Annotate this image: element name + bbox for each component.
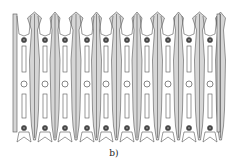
bottom-rivet-center: [64, 127, 66, 129]
center-hole-icon: [186, 81, 192, 87]
bottom-notch: [182, 132, 196, 142]
bottom-notch: [161, 132, 175, 142]
top-rivet-center: [64, 39, 66, 41]
upper-slot: [22, 46, 26, 72]
bottom-rivet-center: [188, 127, 190, 129]
center-hole-icon: [207, 81, 213, 87]
bottom-notch: [99, 132, 113, 142]
center-hole-icon: [84, 81, 90, 87]
center-hole-icon: [62, 81, 68, 87]
bottom-notch: [58, 132, 72, 142]
bottom-notch: [17, 132, 31, 142]
bottom-notch: [120, 132, 134, 142]
upper-slot: [43, 46, 47, 72]
lower-slot: [104, 94, 108, 118]
lower-slot: [187, 94, 191, 118]
bottom-rivet-center: [105, 127, 107, 129]
upper-slot: [187, 46, 191, 72]
center-hole-icon: [165, 81, 171, 87]
bottom-notch: [80, 132, 94, 142]
upper-slot: [208, 46, 212, 72]
upper-slot: [166, 46, 170, 72]
lower-slot: [85, 94, 89, 118]
lamination-diagram: [0, 0, 228, 165]
top-rivet-center: [44, 39, 46, 41]
bottom-rivet-center: [86, 127, 88, 129]
lower-slot: [43, 94, 47, 118]
upper-slot: [145, 46, 149, 72]
lower-slot: [22, 94, 26, 118]
edge-bar: [13, 14, 17, 132]
top-rivet-center: [105, 39, 107, 41]
top-rivet-center: [146, 39, 148, 41]
lower-slot: [166, 94, 170, 118]
figure-caption: b): [0, 148, 228, 158]
lower-slot: [145, 94, 149, 118]
center-hole-icon: [144, 81, 150, 87]
top-rivet-center: [86, 39, 88, 41]
top-rivet-center: [209, 39, 211, 41]
upper-slot: [85, 46, 89, 72]
center-hole-icon: [124, 81, 130, 87]
bottom-rivet-center: [126, 127, 128, 129]
top-rivet-center: [167, 39, 169, 41]
bottom-notch: [38, 132, 52, 142]
bottom-rivet-center: [167, 127, 169, 129]
top-rivet-center: [188, 39, 190, 41]
upper-slot: [104, 46, 108, 72]
bottom-rivet-center: [146, 127, 148, 129]
upper-slot: [125, 46, 129, 72]
top-rivet-center: [23, 39, 25, 41]
bottom-rivet-center: [44, 127, 46, 129]
bottom-notch: [203, 132, 217, 142]
bottom-notch: [140, 132, 154, 142]
center-hole-icon: [21, 81, 27, 87]
edge-bar-right: [217, 14, 220, 132]
upper-slot: [63, 46, 67, 72]
center-hole-icon: [103, 81, 109, 87]
lower-slot: [208, 94, 212, 118]
top-rivet-center: [126, 39, 128, 41]
lower-slot: [125, 94, 129, 118]
lower-slot: [63, 94, 67, 118]
center-hole-icon: [42, 81, 48, 87]
bottom-rivet-center: [23, 127, 25, 129]
bottom-rivet-center: [209, 127, 211, 129]
